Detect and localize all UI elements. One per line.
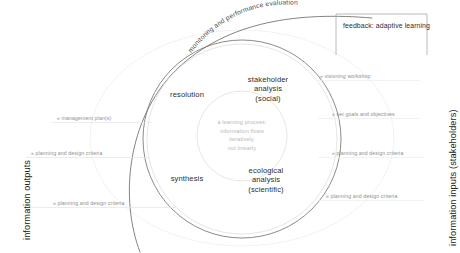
input-label-3: « planning and design criteria (332, 150, 403, 157)
center-note-line-3: iteratively, (200, 135, 284, 144)
input-label-4: « planning and design criteria (326, 193, 397, 200)
quadrant-stakeholder-line-3: (social) (236, 94, 300, 103)
output-text-1: management plan(s) (62, 115, 112, 121)
quadrant-ecological-line-1: ecological (232, 166, 300, 175)
quadrant-ecological-line-2: analysis (232, 175, 300, 184)
quadrant-resolution-line-1: resolution (156, 90, 218, 99)
output-text-3: planning and design criteria (58, 200, 125, 206)
quadrant-ecological-line-3: (scientific) (232, 185, 300, 194)
center-note-line-2: information flows (200, 127, 284, 136)
center-note-line-1: a learning process: (200, 118, 284, 127)
quadrant-stakeholder-line-1: stakeholder (236, 75, 300, 84)
center-note: a learning process: information flows it… (200, 118, 284, 153)
quadrant-label-stakeholder-analysis: stakeholder analysis (social) (236, 75, 300, 103)
quadrant-label-resolution: resolution (156, 90, 218, 99)
axis-label-information-inputs: information inputs (stakeholders) (448, 109, 460, 246)
output-text-2: planning and design criteria (36, 150, 103, 156)
quadrant-synthesis-line-1: synthesis (157, 174, 217, 183)
input-text-1: visioning workshop (325, 73, 371, 79)
input-text-4: planning and design criteria (331, 193, 398, 199)
input-text-2: set goals and objectives (337, 111, 395, 117)
input-label-2: « set goals and objectives (332, 111, 395, 118)
output-label-3: « planning and design criteria (53, 200, 124, 207)
feedback-box-label: feedback: adaptive learning (343, 22, 430, 31)
feedback-box-outline (336, 14, 427, 55)
arc-caption-text: monitoring and performance evaluation (187, 0, 299, 54)
quadrant-stakeholder-line-2: analysis (236, 84, 300, 93)
quadrant-label-synthesis: synthesis (157, 174, 217, 183)
input-label-1: « visioning workshop (320, 73, 371, 80)
output-label-2: « planning and design criteria (31, 150, 102, 157)
axis-label-information-outputs: information outputs (22, 160, 34, 240)
input-text-3: planning and design criteria (337, 150, 404, 156)
arc-caption: monitoring and performance evaluation (187, 0, 299, 54)
center-note-line-4: not linearly (200, 144, 284, 153)
diagram-canvas: monitoring and performance evaluation fe… (0, 0, 460, 253)
quadrant-label-ecological-analysis: ecological analysis (scientific) (232, 166, 300, 194)
output-label-1: « management plan(s) (57, 115, 111, 122)
